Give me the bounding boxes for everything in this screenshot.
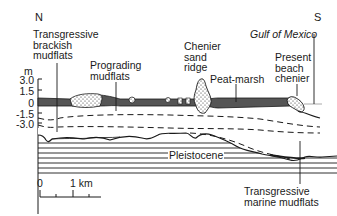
- chenier-ridge: [194, 79, 211, 113]
- scale-bar: [40, 190, 101, 197]
- scale-start-label: 0: [37, 178, 43, 189]
- prograding-sand: [70, 94, 102, 108]
- beach-chenier: [287, 97, 304, 113]
- sea-label: Gulf of Mexico: [250, 29, 317, 40]
- label-transgressive-marine: Transgressive marine mudflats: [244, 186, 319, 207]
- label-chenier-ridge: Chenier sand ridge: [184, 41, 221, 73]
- axis-tick-3: 3.0: [8, 75, 34, 85]
- north-label: N: [35, 12, 43, 23]
- scale-end-label: 1 km: [70, 178, 93, 189]
- axis-tick-1-5: 1.5: [8, 86, 34, 96]
- label-peat-marsh: Peat-marsh: [210, 74, 264, 85]
- label-prograding: Prograding mudflats: [90, 60, 141, 81]
- axis-tick-0: 0: [8, 98, 34, 108]
- label-present-beach: Present beach chenier: [275, 52, 311, 84]
- label-transgressive-brackish: Transgressive brackish mudflats: [33, 29, 99, 61]
- south-label: S: [314, 12, 321, 23]
- label-pleistocene: Pleistocene: [168, 150, 224, 161]
- axis-tick-neg3: -3.0: [8, 119, 34, 129]
